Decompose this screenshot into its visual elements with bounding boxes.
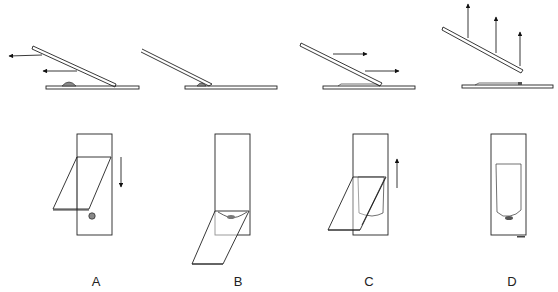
spreader-slide-top <box>53 157 111 210</box>
panel-c-top-view <box>328 134 397 235</box>
glass-slide <box>462 85 553 88</box>
panel-label-a: A <box>86 274 106 289</box>
blood-film-edge <box>518 82 522 85</box>
panel-c-side-view <box>300 43 415 89</box>
blood-drop <box>62 82 76 86</box>
glass-slide <box>185 86 277 89</box>
panel-b-side-view <box>141 49 277 89</box>
panel-label-c: C <box>359 274 379 289</box>
spreader-slide-top <box>328 177 386 230</box>
spreader-slide <box>141 49 212 86</box>
glass-slide <box>323 86 415 89</box>
blood-smear-top <box>496 164 521 216</box>
blood-drop-top <box>89 213 95 219</box>
panel-d-top-view <box>491 134 526 238</box>
panel-label-d: D <box>502 274 522 289</box>
smear-tail <box>505 216 513 220</box>
spreader-slide <box>32 46 116 87</box>
panel-a-top-view <box>53 134 121 235</box>
arrow-left-icon <box>9 55 42 56</box>
panel-label-b: B <box>228 274 248 289</box>
panel-d-side-view <box>442 4 553 88</box>
spreader-slide-top <box>192 211 249 264</box>
panel-b-top-view <box>192 134 250 264</box>
panel-a-side-view <box>9 46 139 89</box>
smear-diagram <box>0 0 558 292</box>
glass-slide <box>46 86 139 89</box>
blood-drop-top <box>227 215 235 219</box>
scale-mark <box>517 236 525 238</box>
spreader-slide <box>300 43 382 86</box>
spreader-slide <box>442 27 523 73</box>
